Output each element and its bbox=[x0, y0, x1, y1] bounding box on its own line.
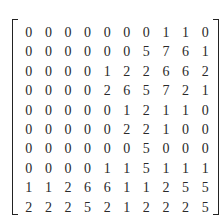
matrix-cell: 0 bbox=[58, 42, 78, 61]
matrix-cell: 0 bbox=[97, 120, 117, 139]
matrix-row: 2225212225 bbox=[19, 198, 215, 217]
matrix-cell: 1 bbox=[176, 23, 196, 42]
matrix-cell: 0 bbox=[39, 120, 59, 139]
matrix-cell: 0 bbox=[78, 139, 98, 158]
matrix-cell: 2 bbox=[19, 198, 39, 217]
matrix-cell: 5 bbox=[137, 81, 157, 100]
matrix-cell: 0 bbox=[97, 139, 117, 158]
matrix-cell: 1 bbox=[19, 178, 39, 197]
matrix-cell: 0 bbox=[19, 139, 39, 158]
matrix-cell: 0 bbox=[58, 23, 78, 42]
matrix-cell: 0 bbox=[195, 101, 215, 120]
matrix-cell: 0 bbox=[39, 139, 59, 158]
matrix-cell: 1 bbox=[156, 159, 176, 178]
matrix-cell: 5 bbox=[195, 198, 215, 217]
matrix-cell: 1 bbox=[137, 178, 157, 197]
matrix-row: 0000115111 bbox=[19, 159, 215, 178]
matrix-cell: 0 bbox=[117, 42, 137, 61]
matrix-cell: 1 bbox=[176, 101, 196, 120]
matrix-cell: 2 bbox=[137, 198, 157, 217]
matrix-cell: 0 bbox=[58, 159, 78, 178]
matrix-cell: 7 bbox=[156, 42, 176, 61]
matrix-cell: 5 bbox=[78, 198, 98, 217]
matrix-cell: 5 bbox=[137, 159, 157, 178]
matrix-cell: 2 bbox=[137, 120, 157, 139]
matrix-cell: 2 bbox=[58, 178, 78, 197]
matrix-cell: 6 bbox=[97, 178, 117, 197]
matrix-row: 1126611255 bbox=[19, 178, 215, 197]
matrix-cell: 2 bbox=[195, 62, 215, 81]
matrix-cell: 2 bbox=[156, 198, 176, 217]
matrix-cell: 1 bbox=[156, 101, 176, 120]
matrix-cell: 0 bbox=[58, 62, 78, 81]
matrix-cell: 0 bbox=[97, 42, 117, 61]
matrix-cell: 0 bbox=[117, 139, 137, 158]
matrix-cell: 6 bbox=[176, 42, 196, 61]
matrix-row: 0000022100 bbox=[19, 120, 215, 139]
matrix-row: 0000122662 bbox=[19, 62, 215, 81]
matrix-cell: 0 bbox=[39, 101, 59, 120]
matrix-cell: 0 bbox=[176, 120, 196, 139]
matrix-cell: 0 bbox=[58, 81, 78, 100]
matrix-cell: 6 bbox=[176, 62, 196, 81]
matrix-cell: 5 bbox=[137, 139, 157, 158]
matrix-cell: 6 bbox=[156, 62, 176, 81]
matrix-cell: 0 bbox=[78, 159, 98, 178]
matrix-cell: 2 bbox=[39, 198, 59, 217]
matrix-cell: 0 bbox=[19, 81, 39, 100]
matrix: 0000000110000000576100001226620000265721… bbox=[12, 19, 219, 215]
matrix-cell: 1 bbox=[117, 198, 137, 217]
matrix-cell: 1 bbox=[117, 159, 137, 178]
matrix-cell: 0 bbox=[19, 101, 39, 120]
matrix-cell: 5 bbox=[137, 42, 157, 61]
matrix-cell: 0 bbox=[78, 42, 98, 61]
matrix-cell: 0 bbox=[19, 159, 39, 178]
matrix-cell: 0 bbox=[97, 23, 117, 42]
matrix-cell: 0 bbox=[58, 139, 78, 158]
matrix-cell: 0 bbox=[19, 23, 39, 42]
matrix-cell: 2 bbox=[176, 198, 196, 217]
matrix-cell: 0 bbox=[39, 81, 59, 100]
matrix-cell: 0 bbox=[78, 101, 98, 120]
matrix-cell: 6 bbox=[117, 81, 137, 100]
matrix-cell: 2 bbox=[137, 62, 157, 81]
matrix-cell: 0 bbox=[39, 62, 59, 81]
matrix-cell: 0 bbox=[39, 23, 59, 42]
matrix-cell: 0 bbox=[39, 42, 59, 61]
matrix-cell: 1 bbox=[97, 62, 117, 81]
right-bracket bbox=[213, 19, 219, 215]
matrix-cell: 2 bbox=[58, 198, 78, 217]
matrix-cell: 1 bbox=[176, 159, 196, 178]
matrix-cell: 0 bbox=[58, 120, 78, 139]
matrix-cell: 0 bbox=[39, 159, 59, 178]
matrix-cell: 0 bbox=[195, 23, 215, 42]
matrix-cell: 2 bbox=[117, 120, 137, 139]
matrix-cell: 1 bbox=[39, 178, 59, 197]
matrix-cell: 1 bbox=[195, 81, 215, 100]
matrix-cell: 5 bbox=[176, 178, 196, 197]
matrix-row: 0000012110 bbox=[19, 101, 215, 120]
matrix-cell: 2 bbox=[97, 198, 117, 217]
matrix-cell: 2 bbox=[117, 62, 137, 81]
matrix-cell: 0 bbox=[195, 139, 215, 158]
matrix-row: 0000265721 bbox=[19, 81, 215, 100]
matrix-cell: 2 bbox=[156, 178, 176, 197]
matrix-cell: 0 bbox=[117, 23, 137, 42]
matrix-cell: 0 bbox=[78, 120, 98, 139]
left-bracket bbox=[12, 19, 18, 215]
matrix-cell: 1 bbox=[117, 178, 137, 197]
matrix-cell: 1 bbox=[195, 159, 215, 178]
matrix-cell: 1 bbox=[195, 42, 215, 61]
matrix-cell: 5 bbox=[195, 178, 215, 197]
matrix-cell: 2 bbox=[176, 81, 196, 100]
matrix-cell: 1 bbox=[156, 23, 176, 42]
matrix-cell: 2 bbox=[97, 81, 117, 100]
matrix-cell: 0 bbox=[78, 81, 98, 100]
matrix-cell: 1 bbox=[156, 120, 176, 139]
matrix-cell: 0 bbox=[19, 120, 39, 139]
matrix-grid: 0000000110000000576100001226620000265721… bbox=[19, 23, 215, 217]
matrix-cell: 2 bbox=[137, 101, 157, 120]
matrix-cell: 1 bbox=[97, 159, 117, 178]
matrix-cell: 1 bbox=[117, 101, 137, 120]
matrix-cell: 0 bbox=[58, 101, 78, 120]
